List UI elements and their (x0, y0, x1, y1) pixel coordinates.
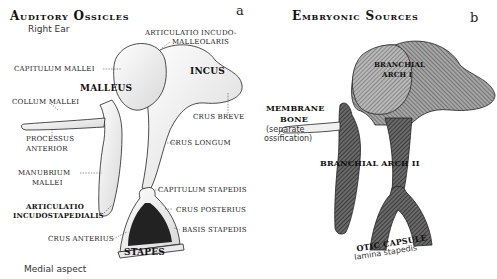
label-crus-posterius: CRUS POSTERIUS (176, 206, 246, 214)
label-stapes: STAPES (124, 247, 165, 257)
ossicles-diagram: Auditory Ossicles Right Ear a ARTICULATI… (0, 0, 497, 279)
label-manubrium-mallei-2: MALLEI (32, 179, 63, 187)
label-incus: INCUS (190, 66, 225, 76)
label-crus-longum: CRUS LONGUM (170, 139, 231, 147)
label-membrane-bone: MEMBRANE (266, 103, 324, 113)
label-articulatio-incudomalleolaris: ARTICULATIO INCUDO- (145, 29, 237, 37)
label-membrane-bone-2: BONE (280, 114, 308, 124)
label-collum-mallei: COLLUM MALLEI (12, 98, 79, 106)
label-manubrium-mallei: MANUBRIUM (18, 169, 70, 177)
manubrium-shape (99, 100, 122, 216)
panel-a-subtitle: Right Ear (28, 24, 69, 34)
panel-a-footer: Medial aspect (24, 264, 86, 274)
label-separate-ossification-2: ossification) (264, 134, 312, 143)
label-branchial-arch-2: BRANCHIAL ARCH II (320, 158, 420, 168)
label-branchial-arch-1-2: ARCH I (382, 70, 412, 79)
label-branchial-arch-1: BRANCHIAL (374, 60, 425, 69)
label-crus-breve: CRUS BREVE (193, 113, 244, 121)
label-basis-stapedis: BASIS STAPEDIS (182, 226, 247, 234)
label-crus-anterius: CRUS ANTERIUS (48, 235, 114, 243)
panel-a-title: Auditory Ossicles (10, 9, 129, 23)
label-articulatio-incudostapedialis: ARTICULATIO (26, 202, 84, 211)
label-capitulum-stapedis: CAPITULUM STAPEDIS (158, 186, 247, 194)
processus-anterior-shape (21, 118, 105, 130)
label-processus-anterior: PROCESSUS (26, 135, 74, 143)
label-articulatio-incudomalleolaris-2: MALLEOLARIS (172, 38, 229, 46)
panel-a-letter: a (236, 3, 244, 18)
panel-b-title: Embryonic Sources (292, 9, 419, 23)
label-articulatio-incudostapedialis-2: INCUDOSTAPEDIALIS (13, 211, 104, 220)
label-processus-anterior-2: ANTERIOR (26, 145, 68, 153)
label-capitulum-mallei: CAPITULUM MALLEI (14, 65, 95, 73)
label-malleus: MALLEUS (80, 83, 132, 93)
label-separate-ossification: (separate (266, 125, 304, 134)
panel-b-letter: b (470, 10, 478, 25)
